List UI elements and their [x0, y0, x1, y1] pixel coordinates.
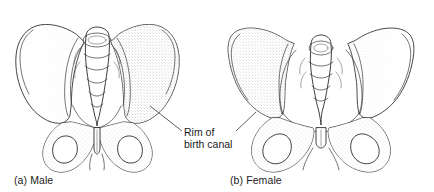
leader-line-to-male-pelvis — [150, 106, 182, 131]
annotation-label-line-1: Rim of — [184, 126, 214, 139]
pelvis-illustration — [0, 0, 434, 192]
male-right-ilium-shading — [111, 24, 179, 123]
male-left-obturator-foramen — [53, 136, 78, 163]
male-pelvis-drawing — [16, 24, 179, 172]
female-pelvis-drawing — [228, 28, 414, 172]
annotation-label-line-2: birth canal — [184, 138, 232, 151]
male-right-obturator-foramen — [118, 136, 143, 163]
panel-caption-male: (a) Male — [14, 175, 53, 186]
leader-line-to-female-pelvis — [236, 112, 256, 131]
panel-caption-female: (b) Female — [230, 175, 282, 186]
female-right-ilium-shading — [348, 28, 414, 118]
pelvis-comparison-figure: Rim of birth canal (a) Male (b) Female — [0, 0, 434, 192]
female-left-ilium-shading — [228, 28, 294, 118]
